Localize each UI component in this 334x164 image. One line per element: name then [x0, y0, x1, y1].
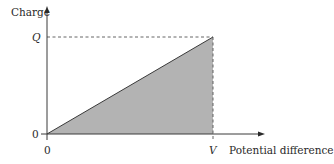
x-axis-arrow-icon [258, 132, 265, 137]
q-label: Q [32, 32, 41, 43]
x-axis-label: Potential difference [229, 145, 334, 156]
y-origin-label: 0 [32, 129, 39, 140]
v-label: V [209, 145, 217, 156]
y-axis-label: Charge [11, 7, 50, 18]
x-origin-label: 0 [44, 145, 51, 156]
